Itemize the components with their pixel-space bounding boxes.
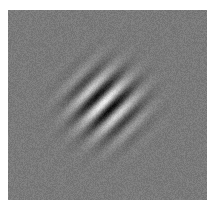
gabor-patch-image bbox=[8, 10, 207, 200]
